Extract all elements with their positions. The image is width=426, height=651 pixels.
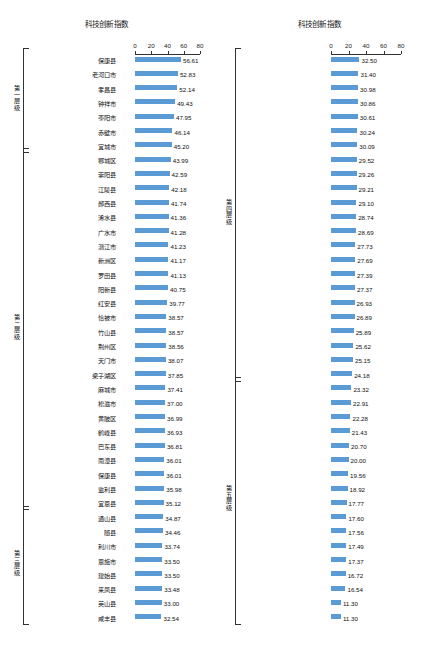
bar bbox=[135, 114, 174, 119]
bar-category-label: 恩施市 bbox=[98, 559, 116, 565]
bar-value-label: 42.59 bbox=[172, 172, 187, 178]
bar-value-label: 33.50 bbox=[164, 559, 179, 565]
bar-value-label: 22.28 bbox=[352, 416, 367, 422]
bar bbox=[331, 314, 355, 319]
bar-category-label: 建始县 bbox=[98, 573, 116, 579]
bar-value-label: 52.83 bbox=[180, 72, 195, 78]
bar bbox=[135, 385, 165, 390]
bar-category-label: 浠水县 bbox=[98, 215, 116, 221]
bar-value-label: 28.74 bbox=[358, 215, 373, 221]
chart-title-left: 科技创新指数 bbox=[0, 18, 213, 29]
axis-tick bbox=[331, 51, 332, 54]
bar-value-label: 38.56 bbox=[168, 344, 183, 350]
bar-value-label: 32.50 bbox=[361, 58, 376, 64]
bar bbox=[331, 443, 349, 448]
bar-category-label: 赤壁市 bbox=[98, 130, 116, 136]
bar-value-label: 41.17 bbox=[170, 258, 185, 264]
bar bbox=[331, 128, 357, 133]
bar-value-label: 29.21 bbox=[359, 187, 374, 193]
axis-tick bbox=[366, 51, 367, 54]
bar bbox=[331, 571, 346, 576]
bar-value-label: 26.93 bbox=[357, 301, 372, 307]
bar-category-label: 荆州区 bbox=[98, 344, 116, 350]
bar-value-label: 23.32 bbox=[353, 387, 368, 393]
bar bbox=[331, 557, 346, 562]
bar bbox=[331, 114, 358, 119]
bar-value-label: 42.18 bbox=[171, 187, 186, 193]
bar-value-label: 41.28 bbox=[171, 230, 186, 236]
bar-category-label: 恰被市 bbox=[98, 315, 116, 321]
bar bbox=[331, 471, 348, 476]
bar bbox=[331, 171, 357, 176]
group-bracket bbox=[23, 148, 29, 510]
bar bbox=[331, 343, 353, 348]
bar-category-label: 广水市 bbox=[98, 230, 116, 236]
bar-category-label: 新洲区 bbox=[98, 258, 116, 264]
bar bbox=[331, 200, 356, 205]
axis-tick bbox=[184, 51, 185, 54]
bar-category-label: 宜城市 bbox=[98, 144, 116, 150]
bar bbox=[135, 343, 166, 348]
bar bbox=[135, 600, 162, 605]
bar bbox=[331, 500, 347, 505]
bar bbox=[331, 600, 341, 605]
group-bracket bbox=[235, 377, 241, 625]
bar-category-label: 老河口市 bbox=[92, 72, 116, 78]
bar bbox=[135, 371, 166, 376]
bar bbox=[331, 543, 346, 548]
bar bbox=[331, 614, 341, 619]
axis-line bbox=[331, 54, 401, 55]
bar bbox=[331, 300, 355, 305]
bar-value-label: 20.00 bbox=[351, 458, 366, 464]
bar-category-label: 天门市 bbox=[98, 358, 116, 364]
bar bbox=[135, 285, 168, 290]
bar-value-label: 17.60 bbox=[348, 516, 363, 522]
bar-value-label: 17.37 bbox=[348, 559, 363, 565]
bar-value-label: 40.75 bbox=[170, 287, 185, 293]
bar-value-label: 32.54 bbox=[163, 616, 178, 622]
bar-category-label: 利川市 bbox=[98, 544, 116, 550]
bar-value-label: 27.39 bbox=[357, 273, 372, 279]
chart-page: 科技创新指数 020406080 江夏区56.61蔡甸区52.83大冶市52.1… bbox=[0, 0, 426, 651]
bar bbox=[331, 228, 356, 233]
bar bbox=[331, 328, 354, 333]
bar-value-label: 33.74 bbox=[164, 544, 179, 550]
axis-tick bbox=[200, 51, 201, 54]
bar-value-label: 43.99 bbox=[173, 158, 188, 164]
bar bbox=[135, 300, 167, 305]
bar-category-label: 宜恩县 bbox=[98, 501, 116, 507]
bar bbox=[331, 457, 349, 462]
bar-value-label: 29.52 bbox=[359, 158, 374, 164]
bar-category-label: 南漳县 bbox=[98, 458, 116, 464]
bar bbox=[135, 157, 171, 162]
bar-category-label: 崇阳县 bbox=[98, 172, 116, 178]
bar-value-label: 18.92 bbox=[350, 487, 365, 493]
bar bbox=[331, 400, 351, 405]
bar-value-label: 38.57 bbox=[168, 315, 183, 321]
bar bbox=[331, 257, 355, 262]
bar-value-label: 30.09 bbox=[359, 144, 374, 150]
bar-value-label: 45.20 bbox=[174, 144, 189, 150]
bar-value-label: 30.24 bbox=[359, 130, 374, 136]
bar bbox=[331, 371, 352, 376]
bar bbox=[331, 185, 357, 190]
bar-value-label: 41.23 bbox=[170, 244, 185, 250]
bar-category-label: 随县 bbox=[104, 530, 116, 536]
bar-value-label: 22.91 bbox=[353, 401, 368, 407]
bar bbox=[135, 514, 163, 519]
bar bbox=[331, 414, 350, 419]
bar bbox=[135, 57, 181, 62]
bar-category-label: 枣阳市 bbox=[98, 115, 116, 121]
axis-tick bbox=[384, 51, 385, 54]
bar-value-label: 36.99 bbox=[167, 416, 182, 422]
bar-category-label: 黄陂区 bbox=[98, 416, 116, 422]
bar-value-label: 38.57 bbox=[168, 330, 183, 336]
bar bbox=[135, 214, 169, 219]
bar-value-label: 37.85 bbox=[168, 373, 183, 379]
chart-panel-right: 科技创新指数 020406080 保康县32.50老河口市31.40孝昌县30.… bbox=[213, 0, 426, 651]
bar-value-label: 37.41 bbox=[167, 387, 182, 393]
bar-value-label: 36.81 bbox=[167, 444, 182, 450]
bar bbox=[135, 571, 162, 576]
bar bbox=[331, 142, 357, 147]
bar-category-label: 孝昌县 bbox=[98, 87, 116, 93]
